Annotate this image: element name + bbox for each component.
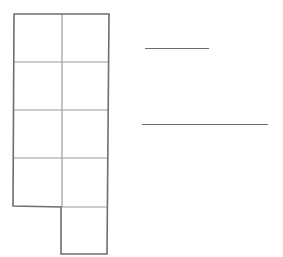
- grid-shape-svg: [0, 0, 283, 257]
- shape-outline: [13, 14, 109, 254]
- inner-grid-lines: [13, 14, 108, 207]
- long-answer-line[interactable]: [142, 124, 268, 125]
- short-answer-line[interactable]: [145, 48, 209, 49]
- grid-shape-diagram: [0, 0, 283, 257]
